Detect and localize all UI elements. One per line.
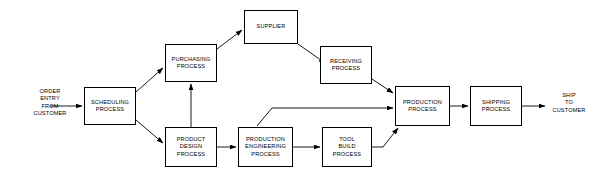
node-production-engineering-process-label: PRODUCTION ENGINEERING PROCESS	[245, 136, 286, 158]
node-receiving-process[interactable]: RECEIVING PROCESS	[320, 46, 372, 84]
label-ship-to-customer: SHIP TO CUSTOMER	[543, 92, 595, 114]
node-purchasing-process[interactable]: PURCHASING PROCESS	[165, 44, 217, 82]
node-production-process-label: PRODUCTION PROCESS	[403, 99, 442, 114]
edge-production-engineering-to-production	[257, 108, 393, 126]
node-product-design-process-label: PRODUCT DESIGN PROCESS	[177, 136, 206, 158]
node-product-design-process[interactable]: PRODUCT DESIGN PROCESS	[165, 127, 217, 167]
node-purchasing-process-label: PURCHASING PROCESS	[172, 56, 211, 71]
node-tool-build-process-label: TOOL BUILD PROCESS	[333, 136, 361, 158]
node-supplier[interactable]: SUPPLIER	[244, 10, 298, 44]
edge-receiving-to-production	[372, 79, 393, 93]
edge-purchasing-to-supplier	[217, 30, 242, 49]
node-production-engineering-process[interactable]: PRODUCTION ENGINEERING PROCESS	[238, 127, 293, 167]
node-production-process[interactable]: PRODUCTION PROCESS	[395, 86, 450, 126]
node-scheduling-process[interactable]: SCHEDULING PROCESS	[84, 87, 136, 125]
node-scheduling-process-label: SCHEDULING PROCESS	[91, 99, 129, 114]
node-shipping-process[interactable]: SHIPPING PROCESS	[470, 86, 522, 126]
edge-scheduling-to-product-design	[136, 120, 163, 143]
node-receiving-process-label: RECEIVING PROCESS	[330, 58, 362, 73]
label-order-entry-from-customer: ORDER ENTRY FROM CUSTOMER	[22, 88, 78, 118]
node-shipping-process-label: SHIPPING PROCESS	[482, 99, 510, 114]
flowchart-canvas: ORDER ENTRY FROM CUSTOMER SCHEDULING PRO…	[0, 0, 600, 180]
edge-tool-build-to-production	[372, 128, 398, 147]
edge-scheduling-to-purchasing	[136, 68, 163, 92]
node-tool-build-process[interactable]: TOOL BUILD PROCESS	[322, 127, 372, 167]
node-supplier-label: SUPPLIER	[257, 23, 286, 30]
